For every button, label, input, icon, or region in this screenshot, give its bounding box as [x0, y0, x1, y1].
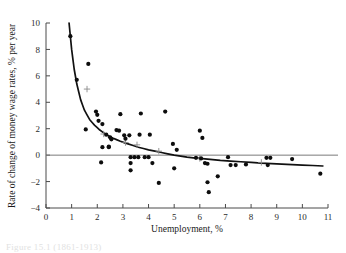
group-mean-cross-markers — [84, 86, 265, 166]
data-point — [104, 133, 108, 137]
data-point — [95, 113, 99, 117]
data-point — [129, 168, 133, 172]
data-point — [244, 162, 248, 166]
cross-marker — [156, 148, 162, 154]
y-tick-label: 2 — [36, 124, 41, 134]
x-tick-label: 10 — [298, 212, 308, 222]
x-axis-tick-labels: 01234567891011 — [44, 212, 333, 222]
x-tick-label: 6 — [198, 212, 203, 222]
data-point — [290, 157, 294, 161]
data-point — [107, 144, 111, 148]
y-axis-tick-labels: −4−20246810 — [30, 18, 40, 213]
y-tick-label: 4 — [36, 97, 41, 107]
data-point — [200, 136, 204, 140]
phillips-curve-figure: −4−20246810 01234567891011 Unemployment,… — [0, 0, 346, 253]
x-tick-label: 4 — [146, 212, 151, 222]
data-point — [175, 148, 179, 152]
data-point — [139, 111, 143, 115]
y-tick-label: 6 — [36, 71, 41, 81]
data-point — [109, 137, 113, 141]
data-point — [117, 129, 121, 133]
data-point — [266, 163, 270, 167]
y-tick-label: −4 — [30, 203, 40, 213]
data-point — [148, 133, 152, 137]
y-axis-title: Rate of change of money wage rates, % pe… — [7, 23, 17, 208]
data-point — [157, 181, 161, 185]
data-point — [171, 142, 175, 146]
data-point — [100, 122, 104, 126]
data-point — [318, 172, 322, 176]
data-point — [136, 155, 140, 159]
y-axis-ticks — [46, 23, 50, 208]
y-tick-label: 10 — [31, 18, 41, 28]
data-point — [205, 180, 209, 184]
x-tick-label: 1 — [69, 212, 74, 222]
x-axis-ticks — [46, 204, 328, 208]
y-tick-label: 8 — [36, 45, 41, 55]
data-point-group — [68, 34, 322, 194]
data-point — [75, 78, 79, 82]
fitted-phillips-curve — [69, 23, 323, 166]
data-point — [118, 112, 122, 116]
data-point — [143, 155, 147, 159]
data-point — [132, 155, 136, 159]
x-axis-group: 01234567891011 — [44, 204, 333, 222]
data-point — [150, 161, 154, 165]
data-point — [129, 161, 133, 165]
data-point — [228, 163, 232, 167]
cross-marker — [84, 86, 90, 92]
x-tick-label: 2 — [95, 212, 100, 222]
y-axis-group: −4−20246810 — [30, 18, 50, 213]
data-point — [199, 156, 203, 160]
x-tick-label: 5 — [172, 212, 177, 222]
data-point — [100, 145, 104, 149]
figure-caption-partial: Figure 15.1 (1861-1913) — [6, 242, 186, 253]
data-point — [226, 155, 230, 159]
y-tick-label: −2 — [30, 177, 40, 187]
data-point — [129, 155, 133, 159]
data-point — [96, 119, 100, 123]
x-tick-label: 3 — [121, 212, 126, 222]
data-point — [123, 137, 127, 141]
data-point — [127, 133, 131, 137]
data-point — [163, 109, 167, 113]
data-point — [146, 155, 150, 159]
x-tick-label: 11 — [324, 212, 333, 222]
data-point — [172, 166, 176, 170]
data-point — [268, 156, 272, 160]
data-point — [198, 129, 202, 133]
data-point — [84, 127, 88, 131]
x-axis-title: Unemployment, % — [151, 224, 223, 234]
scatter-plot-canvas: −4−20246810 01234567891011 Unemployment,… — [0, 0, 346, 253]
data-point — [68, 34, 72, 38]
data-point — [86, 62, 90, 66]
data-point — [216, 174, 220, 178]
data-point — [264, 156, 268, 160]
data-point — [194, 156, 198, 160]
data-point — [234, 163, 238, 167]
data-point — [207, 190, 211, 194]
x-tick-label: 7 — [223, 212, 228, 222]
x-tick-label: 0 — [44, 212, 49, 222]
x-tick-label: 8 — [249, 212, 254, 222]
data-point — [205, 162, 209, 166]
y-tick-label: 0 — [36, 150, 41, 160]
data-point — [137, 133, 141, 137]
x-tick-label: 9 — [274, 212, 279, 222]
data-point — [99, 160, 103, 164]
cross-marker — [258, 159, 264, 165]
